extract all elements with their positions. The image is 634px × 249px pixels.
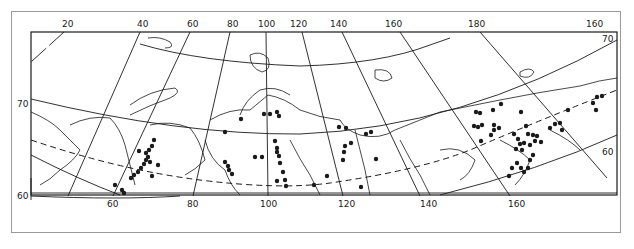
kolyma-area: [400, 140, 430, 195]
meridian-60: [113, 32, 190, 196]
yenisei-river: [205, 140, 240, 195]
lon-label-top-60: 60: [187, 19, 199, 29]
map-border: [31, 32, 617, 195]
wrangel-island: [520, 69, 534, 77]
lena-river: [290, 140, 320, 195]
lon-label-bottom-120: 120: [338, 199, 355, 209]
franz-josef-land: [148, 38, 172, 49]
lon-label-bottom-80: 80: [187, 199, 199, 209]
lon-label-top-100: 100: [258, 19, 275, 29]
new-siberian-islands: [375, 70, 392, 81]
lon-label-top-160: 160: [385, 19, 402, 29]
graticule: [31, 32, 617, 200]
lon-label-top-140: 140: [330, 19, 347, 29]
lon-label-bottom-140: 140: [420, 199, 437, 209]
lon-label-bottom-100: 100: [260, 199, 277, 209]
lon-label-top-80: 80: [227, 19, 239, 29]
lat-label-left-70: 70: [17, 99, 29, 109]
meridian-20: [31, 32, 64, 62]
lon-label-bottom-60: 60: [107, 199, 119, 209]
taymyr: [240, 88, 290, 115]
lon-label-top-180: 180: [468, 19, 485, 29]
meridian-40: [68, 32, 140, 196]
lon-label-bottom-160: 160: [508, 199, 525, 209]
lon-label-top-120: 120: [290, 19, 307, 29]
novaya-zemlya: [130, 88, 178, 115]
meridian-160: [400, 32, 510, 196]
lat-label-left-60: 60: [17, 191, 29, 201]
coastlines: [31, 38, 617, 196]
lat-label-right-60: 60: [602, 147, 614, 157]
lon-label-top-20: 20: [62, 19, 74, 29]
parallel-80: [140, 44, 430, 66]
lon-label-top-160e: 160: [586, 19, 603, 29]
meridian-120: [302, 32, 343, 196]
map-canvas: 20 40 60 80 100 120 140 160 180 160 60 8…: [0, 0, 634, 249]
meridian-140: [342, 32, 420, 196]
arctic-coast: [210, 78, 617, 137]
dashed-boundary-line: [31, 90, 617, 186]
lon-label-top-40: 40: [137, 19, 149, 29]
